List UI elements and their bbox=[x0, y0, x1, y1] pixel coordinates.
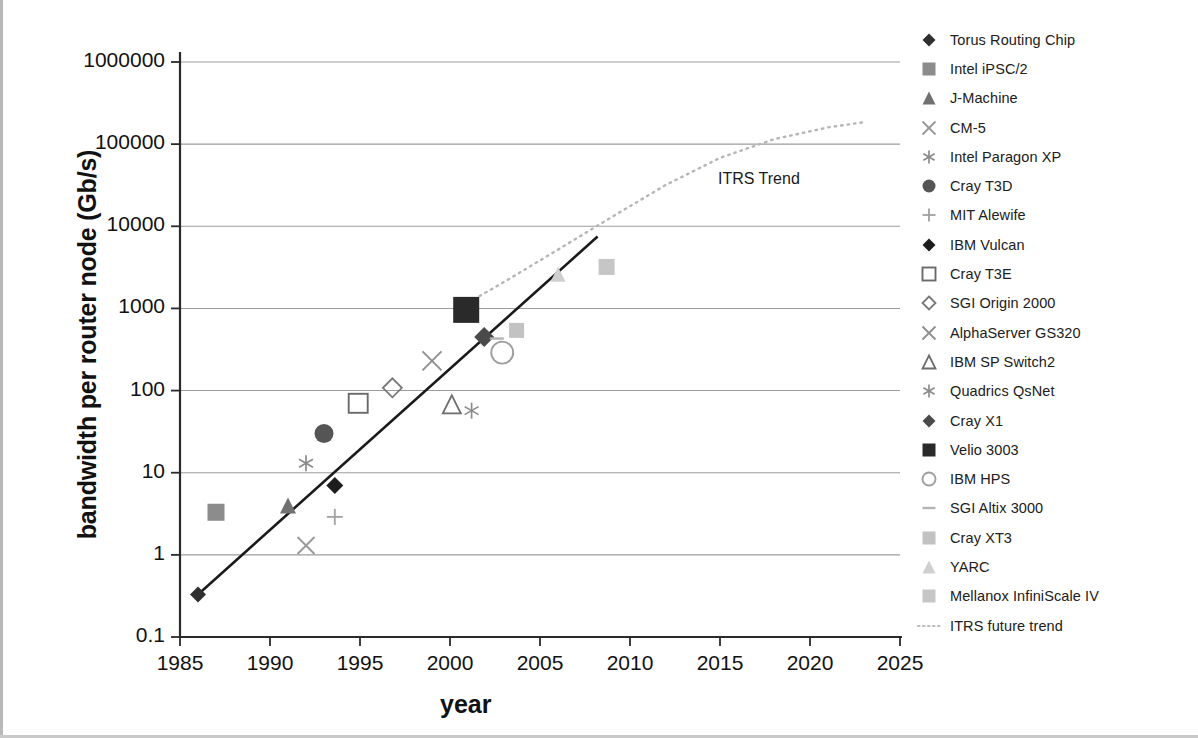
gridlines bbox=[180, 62, 900, 637]
legend-item-label: IBM Vulcan bbox=[950, 237, 1025, 253]
legend-item[interactable]: Intel iPSC/2 bbox=[916, 54, 1198, 83]
legend-item[interactable]: YARC bbox=[916, 552, 1198, 581]
y-tick-label: 1000000 bbox=[15, 48, 165, 72]
data-point-marker bbox=[491, 342, 513, 364]
legend-glyph bbox=[923, 180, 936, 193]
legend-item[interactable]: SGI Altix 3000 bbox=[916, 494, 1198, 523]
legend-glyph bbox=[923, 560, 936, 573]
legend-marker-icon bbox=[916, 440, 942, 460]
legend-marker-icon bbox=[916, 176, 942, 196]
legend-item[interactable]: Cray T3D bbox=[916, 171, 1198, 200]
legend-item[interactable]: IBM SP Switch2 bbox=[916, 347, 1198, 376]
legend-item[interactable]: Intel Paragon XP bbox=[916, 142, 1198, 171]
legend-item[interactable]: AlphaServer GS320 bbox=[916, 318, 1198, 347]
legend-item[interactable]: J-Machine bbox=[916, 84, 1198, 113]
legend-item[interactable]: Torus Routing Chip bbox=[916, 25, 1198, 54]
trend-line bbox=[198, 237, 598, 595]
legend-marker-icon bbox=[916, 88, 942, 108]
legend-marker-icon bbox=[916, 381, 942, 401]
y-tick-label: 100000 bbox=[15, 130, 165, 154]
data-point-marker bbox=[299, 455, 313, 471]
y-tick-label: 10 bbox=[15, 459, 165, 483]
legend-glyph bbox=[923, 268, 936, 281]
legend-glyph bbox=[923, 385, 934, 398]
data-point-marker bbox=[465, 403, 479, 419]
x-tick-label: 2025 bbox=[845, 651, 955, 675]
legend-marker-icon bbox=[916, 293, 942, 313]
legend-glyph bbox=[923, 355, 936, 368]
legend-item-label: MIT Alewife bbox=[950, 207, 1026, 223]
data-point-marker bbox=[208, 504, 225, 521]
itrs-dotted-curve bbox=[457, 122, 864, 309]
y-tick-label: 10000 bbox=[15, 212, 165, 236]
legend-item-label: Cray X1 bbox=[950, 413, 1003, 429]
legend-item[interactable]: Cray T3E bbox=[916, 259, 1198, 288]
itrs-future-trend-curve bbox=[457, 122, 864, 309]
legend-glyph bbox=[923, 531, 936, 544]
data-point-marker bbox=[453, 297, 479, 323]
legend-item[interactable]: Cray X1 bbox=[916, 406, 1198, 435]
data-point-marker bbox=[383, 378, 402, 397]
legend-glyph bbox=[923, 92, 936, 105]
axis-lines bbox=[180, 52, 902, 637]
legend-glyph bbox=[923, 297, 936, 310]
legend-item[interactable]: IBM Vulcan bbox=[916, 230, 1198, 259]
historical-trend-line bbox=[198, 237, 598, 595]
data-point-marker bbox=[551, 267, 566, 282]
y-tick-label: 0.1 bbox=[15, 623, 165, 647]
y-tick-label: 100 bbox=[15, 377, 165, 401]
legend-item[interactable]: Cray XT3 bbox=[916, 523, 1198, 552]
legend-item[interactable]: Mellanox InfiniScale IV bbox=[916, 582, 1198, 611]
legend-marker-icon bbox=[916, 616, 942, 636]
legend-item-label: Torus Routing Chip bbox=[950, 32, 1075, 48]
itrs-trend-annotation: ITRS Trend bbox=[718, 170, 800, 188]
legend-item-label: IBM HPS bbox=[950, 471, 1010, 487]
data-point-marker bbox=[327, 509, 343, 525]
legend-item-label: Intel iPSC/2 bbox=[950, 61, 1028, 77]
legend-marker-icon bbox=[916, 59, 942, 79]
legend-item-label: Velio 3003 bbox=[950, 442, 1019, 458]
legend-item-label: Cray T3D bbox=[950, 178, 1013, 194]
data-point-marker bbox=[326, 477, 343, 494]
legend-glyph bbox=[923, 590, 936, 603]
legend-marker-icon bbox=[916, 264, 942, 284]
legend-item-label: SGI Origin 2000 bbox=[950, 295, 1055, 311]
legend-marker-icon bbox=[916, 323, 942, 343]
legend-item[interactable]: MIT Alewife bbox=[916, 201, 1198, 230]
data-point-marker bbox=[443, 395, 461, 413]
legend-item-label: Mellanox InfiniScale IV bbox=[950, 588, 1099, 604]
x-axis-title: year bbox=[440, 690, 491, 719]
data-point-marker bbox=[315, 424, 334, 443]
legend-marker-icon bbox=[916, 118, 942, 138]
axis-ticks bbox=[171, 62, 900, 646]
legend-item[interactable]: Velio 3003 bbox=[916, 435, 1198, 464]
legend-marker-icon bbox=[916, 235, 942, 255]
data-markers bbox=[190, 259, 615, 602]
legend-marker-icon bbox=[916, 469, 942, 489]
legend-item[interactable]: IBM HPS bbox=[916, 464, 1198, 493]
legend-glyph bbox=[923, 326, 936, 339]
data-point-marker bbox=[298, 537, 315, 554]
y-tick-label: 1000 bbox=[15, 294, 165, 318]
legend-marker-icon bbox=[916, 352, 942, 372]
legend-item[interactable]: CM-5 bbox=[916, 113, 1198, 142]
data-point-marker bbox=[349, 394, 368, 413]
legend-item[interactable]: Quadrics QsNet bbox=[916, 377, 1198, 406]
legend-item[interactable]: ITRS future trend bbox=[916, 611, 1198, 640]
chart-legend: Torus Routing ChipIntel iPSC/2J-MachineC… bbox=[916, 25, 1198, 640]
legend-marker-icon bbox=[916, 30, 942, 50]
legend-glyph bbox=[923, 238, 936, 251]
legend-item-label: J-Machine bbox=[950, 90, 1018, 106]
legend-glyph bbox=[923, 33, 936, 46]
data-point-marker bbox=[423, 351, 442, 370]
legend-glyph bbox=[923, 62, 936, 75]
data-point-marker bbox=[509, 323, 524, 338]
legend-marker-icon bbox=[916, 411, 942, 431]
legend-item-label: IBM SP Switch2 bbox=[950, 354, 1055, 370]
legend-item[interactable]: SGI Origin 2000 bbox=[916, 289, 1198, 318]
bandwidth-per-router-node-chart: bandwidth per router node (Gb/s) year IT… bbox=[0, 0, 1198, 738]
legend-glyph bbox=[923, 414, 936, 427]
y-tick-label: 1 bbox=[15, 541, 165, 565]
legend-marker-icon bbox=[916, 147, 942, 167]
legend-marker-icon bbox=[916, 498, 942, 518]
